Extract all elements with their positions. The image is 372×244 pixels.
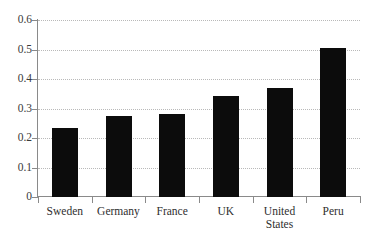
x-tick-label: United States: [253, 205, 307, 231]
bar[interactable]: [213, 96, 239, 197]
x-tick-label: France: [145, 205, 199, 218]
x-tick-label: UK: [199, 205, 253, 218]
bar-chart: 0.60.50.40.30.20.10 SwedenGermanyFranceU…: [0, 0, 372, 244]
x-tick-mark: [38, 197, 39, 203]
y-tick-label: 0.2: [18, 132, 32, 144]
y-tick-label: 0: [26, 191, 32, 203]
y-tick-label: 0.6: [18, 14, 32, 26]
bar[interactable]: [159, 114, 185, 197]
x-tick-mark: [253, 197, 254, 203]
bar[interactable]: [320, 48, 346, 197]
x-tick-mark: [360, 197, 361, 203]
bar[interactable]: [267, 88, 293, 197]
plot-area: [38, 20, 360, 197]
x-tick-label: Sweden: [38, 205, 92, 218]
bar[interactable]: [106, 116, 132, 197]
x-tick-label: Germany: [92, 205, 146, 218]
y-tick-label: 0.4: [18, 73, 32, 85]
x-tick-mark: [145, 197, 146, 203]
x-tick-mark: [306, 197, 307, 203]
y-tick-label: 0.5: [18, 44, 32, 56]
y-tick-label: 0.1: [18, 162, 32, 174]
x-tick-label: Peru: [306, 205, 360, 218]
x-tick-mark: [92, 197, 93, 203]
x-tick-mark: [199, 197, 200, 203]
y-tick-label: 0.3: [18, 103, 32, 115]
bar[interactable]: [52, 128, 78, 197]
